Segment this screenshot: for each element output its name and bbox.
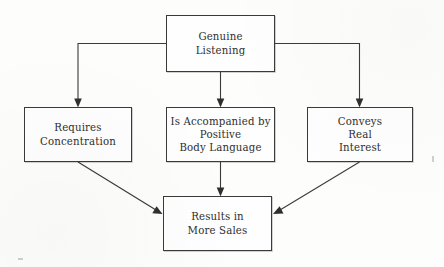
node-text-line: Concentration bbox=[40, 135, 116, 148]
node-text-line: Listening bbox=[196, 44, 246, 57]
node-text-line: More Sales bbox=[188, 224, 248, 237]
scan-speck bbox=[432, 156, 434, 162]
edge-listening-to-interest bbox=[275, 44, 363, 108]
node-results-in-more-sales[interactable]: Results in More Sales bbox=[163, 196, 272, 251]
node-text-line: Conveys bbox=[338, 115, 382, 128]
edge-body-language-to-sales bbox=[217, 162, 225, 197]
scan-speck bbox=[18, 258, 23, 260]
node-requires-concentration[interactable]: Requires Concentration bbox=[24, 107, 132, 162]
edge-listening-to-concentration bbox=[74, 44, 166, 108]
node-text-line: Is Accompanied by bbox=[170, 115, 270, 128]
node-conveys-real-interest[interactable]: Conveys Real Interest bbox=[307, 107, 413, 162]
flowchart-diagram: Genuine Listening Requires Concentration… bbox=[0, 0, 444, 267]
node-text-line: Positive bbox=[200, 128, 241, 141]
edge-interest-to-sales bbox=[273, 162, 360, 214]
node-text-line: Interest bbox=[339, 141, 381, 154]
node-text-line: Genuine bbox=[198, 30, 242, 43]
node-genuine-listening[interactable]: Genuine Listening bbox=[166, 15, 275, 72]
node-text-line: Real bbox=[348, 128, 372, 141]
node-text-line: Results in bbox=[191, 210, 244, 223]
node-text-line: Body Language bbox=[179, 141, 261, 154]
node-text-line: Requires bbox=[54, 121, 101, 134]
node-positive-body-language[interactable]: Is Accompanied by Positive Body Language bbox=[166, 107, 275, 162]
edge-concentration-to-sales bbox=[78, 162, 163, 214]
edge-listening-to-body-language bbox=[217, 72, 225, 108]
